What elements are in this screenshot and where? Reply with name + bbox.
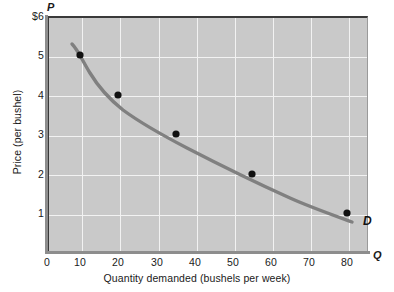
series-label-d: D: [363, 214, 372, 228]
data-point-marker: [114, 91, 121, 98]
y-axis-tick-label: 3: [4, 128, 44, 140]
y-axis-tick-label: $6: [4, 10, 44, 22]
x-axis-tick-label: 40: [180, 256, 210, 268]
x-axis-tick-label: 50: [218, 256, 248, 268]
data-point-marker: [172, 130, 179, 137]
data-point-marker: [248, 170, 255, 177]
x-axis-tick-label: 20: [103, 256, 133, 268]
y-axis-tick-label: 1: [4, 207, 44, 219]
data-point-marker: [76, 51, 83, 58]
x-axis-tick-label: 0: [32, 256, 62, 268]
data-point-marker: [343, 209, 350, 216]
x-axis-tick-label: 10: [65, 256, 95, 268]
y-axis-symbol: P: [47, 1, 54, 13]
y-axis-title: Price (per bushel): [11, 47, 23, 217]
x-axis-title: Quantity demanded (bushels per week): [0, 272, 394, 284]
x-axis-tick-label: 70: [294, 256, 324, 268]
y-axis-tick-label: 5: [4, 49, 44, 61]
y-axis-tick-label: 2: [4, 168, 44, 180]
x-axis-tick-label: 60: [256, 256, 286, 268]
y-axis-tick-label: 4: [4, 89, 44, 101]
demand-curve-layer: [0, 0, 394, 292]
demand-curve-chart: P Q $6 5 4 3 2 1 0 10 20 30 40 50 60 70 …: [0, 0, 394, 292]
x-axis-symbol: Q: [373, 249, 382, 261]
demand-curve-line: [72, 44, 352, 222]
x-axis-tick-label: 30: [142, 256, 172, 268]
x-axis-tick-label: 80: [332, 256, 362, 268]
